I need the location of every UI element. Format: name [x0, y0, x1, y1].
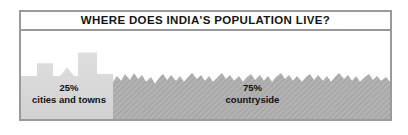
page-title: WHERE DOES INDIA'S POPULATION LIVE? [81, 15, 330, 27]
infographic-root: WHERE DOES INDIA'S POPULATION LIVE? [0, 0, 408, 135]
plot-area: 25% cities and towns 75% countryside [21, 31, 390, 119]
population-split-graphic [21, 31, 390, 119]
chart-frame: WHERE DOES INDIA'S POPULATION LIVE? [19, 10, 392, 121]
title-band: WHERE DOES INDIA'S POPULATION LIVE? [21, 12, 390, 31]
urban-segment-shape [21, 53, 113, 119]
rural-segment-shape [113, 73, 390, 119]
